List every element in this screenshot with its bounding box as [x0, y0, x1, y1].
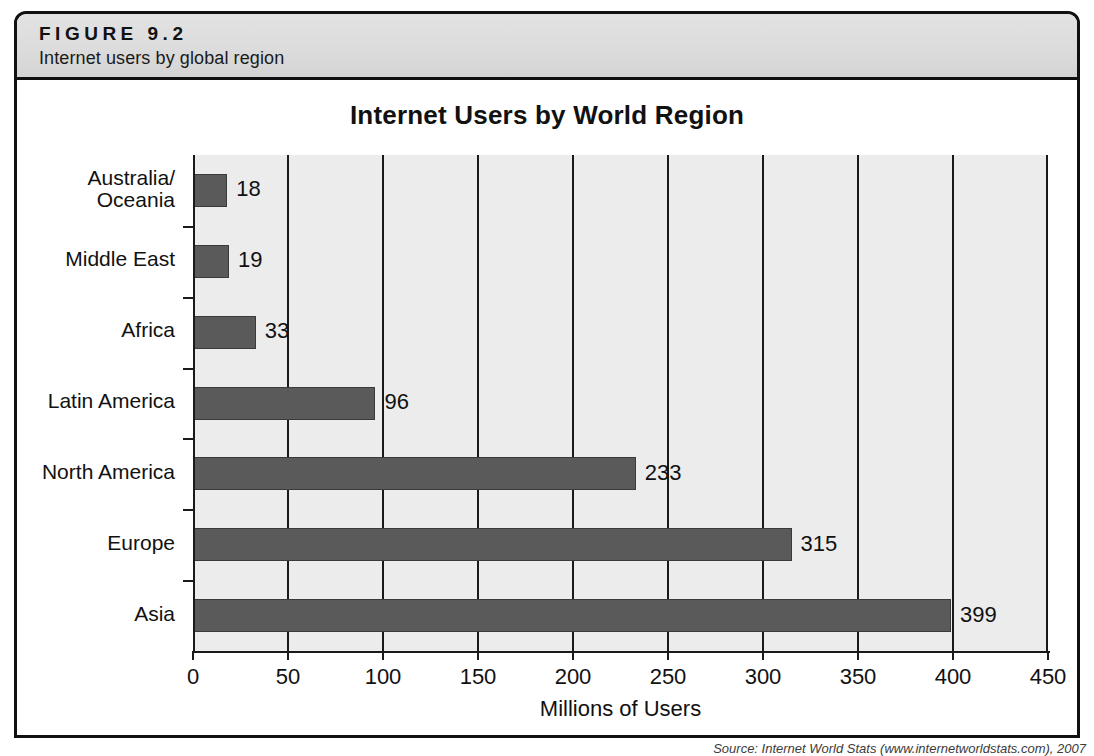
category-label: Middle East	[14, 248, 175, 270]
x-axis-tick-label: 100	[365, 664, 402, 690]
x-axis-tick	[857, 651, 859, 660]
bar	[193, 387, 375, 420]
x-axis-tick	[667, 651, 669, 660]
gridline	[667, 155, 669, 651]
gridline	[572, 155, 574, 651]
category-label: Europe	[14, 532, 175, 554]
gridline	[762, 155, 764, 651]
gridline	[477, 155, 479, 651]
bar-value-label: 96	[384, 389, 408, 415]
x-axis-tick-label: 200	[555, 664, 592, 690]
x-axis-tick	[952, 651, 954, 660]
x-axis-tick	[572, 651, 574, 660]
x-axis-tick	[287, 651, 289, 660]
bar-value-label: 19	[238, 247, 262, 273]
bar-value-label: 33	[265, 318, 289, 344]
x-axis-tick	[1047, 651, 1049, 660]
bar	[193, 599, 951, 632]
figure-frame: FIGURE 9.2 Internet users by global regi…	[14, 11, 1080, 738]
x-axis-tick-label: 450	[1030, 664, 1067, 690]
plot-right-border	[1046, 155, 1048, 651]
bar-value-label: 18	[236, 176, 260, 202]
gridline	[952, 155, 954, 651]
x-axis-tick	[762, 651, 764, 660]
category-axis-labels: Australia/ OceaniaMiddle EastAfricaLatin…	[17, 14, 183, 735]
category-label: Africa	[14, 319, 175, 341]
bar	[193, 316, 256, 349]
category-label: North America	[14, 461, 175, 483]
x-axis-tick	[477, 651, 479, 660]
bar	[193, 528, 792, 561]
bar-value-label: 233	[645, 460, 682, 486]
gridline	[857, 155, 859, 651]
x-axis-tick-label: 50	[276, 664, 300, 690]
bar	[193, 245, 229, 278]
bar-value-label: 399	[960, 602, 997, 628]
bar-value-label: 315	[801, 531, 838, 557]
plot-left-border	[193, 155, 195, 651]
x-axis-tick-label: 300	[745, 664, 782, 690]
x-axis-tick	[382, 651, 384, 660]
x-axis-tick-label: 150	[460, 664, 497, 690]
x-axis-tick	[192, 651, 194, 660]
x-axis-line	[193, 651, 1050, 653]
category-label: Asia	[14, 603, 175, 625]
category-label: Latin America	[14, 390, 175, 412]
bar	[193, 174, 227, 207]
category-label: Australia/ Oceania	[14, 167, 175, 211]
x-axis-tick-label: 350	[840, 664, 877, 690]
x-axis-title: Millions of Users	[193, 696, 1048, 722]
source-note: Source: Internet World Stats (www.intern…	[0, 741, 1094, 756]
x-axis-tick-label: 0	[187, 664, 199, 690]
x-axis-tick-label: 400	[935, 664, 972, 690]
bar	[193, 457, 636, 490]
x-axis-tick-label: 250	[650, 664, 687, 690]
